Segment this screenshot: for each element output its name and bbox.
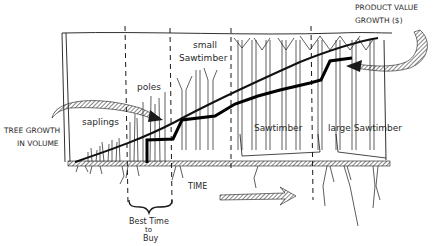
value-arrow bbox=[355, 30, 427, 71]
volume-arrow-head bbox=[148, 110, 163, 122]
stage-label-small-sawtimber-2: Sawtimber bbox=[179, 54, 227, 63]
x-axis-label-time: TIME bbox=[188, 183, 207, 191]
time-arrow bbox=[220, 187, 296, 205]
best-time-brace bbox=[129, 200, 172, 213]
best-time-line2: to bbox=[145, 227, 152, 234]
right-label-line1: PRODUCT VALUE bbox=[355, 4, 418, 12]
stage-label-small-sawtimber-1: small bbox=[193, 41, 217, 50]
stage-label-saplings: saplings bbox=[82, 118, 119, 127]
frame bbox=[62, 33, 392, 162]
value-arrow-head bbox=[346, 60, 362, 72]
best-time-line3: Buy bbox=[143, 235, 158, 243]
left-label-line1: TREE GROWTH bbox=[4, 127, 60, 135]
series-product-value bbox=[147, 58, 352, 163]
sawtimber-brackets bbox=[240, 134, 386, 158]
stage-label-large-sawtimber: large Sawtimber bbox=[328, 124, 402, 133]
stage-label-sawtimber: Sawtimber bbox=[254, 124, 302, 133]
best-time-line1: Best Time bbox=[129, 218, 169, 226]
stage-label-poles: poles bbox=[137, 83, 161, 92]
right-label-line2: GROWTH ($) bbox=[355, 17, 403, 25]
left-label-line2: IN VOLUME bbox=[17, 140, 59, 148]
